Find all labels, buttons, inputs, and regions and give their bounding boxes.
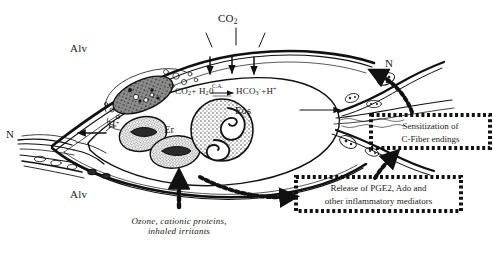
sensitization-box-text: Sensitization of C-Fiber endings: [371, 120, 490, 146]
mediators-line-2: other inflammatory mediators: [296, 195, 461, 208]
irritants-caption: Ozone, cationic proteins, inhaled irrita…: [114, 216, 244, 237]
eq-co2: CO: [175, 86, 188, 96]
equation-reactants: CO2+ H20: [175, 86, 214, 97]
label-nerve-right: N: [385, 57, 393, 70]
figure-root: Alv Alv N N CO2 Er Eos H+ CO2+ H20 C.A. …: [0, 0, 493, 253]
co2-subscript: 2: [234, 17, 238, 26]
label-eosinophil: Eos: [235, 105, 251, 117]
label-nerve-left: N: [6, 128, 14, 141]
equation-products: HCO3-+H+: [236, 86, 277, 97]
mediators-box-text: Release of PGE2, Ado and other inflammat…: [296, 182, 461, 208]
proton-superscript: +: [115, 119, 119, 126]
caption-line-2: inhaled irritants: [114, 226, 244, 236]
eq-plus-1: +: [191, 86, 196, 96]
label-co2-gas: CO2: [218, 12, 238, 26]
sensitization-line-2: C-Fiber endings: [371, 133, 490, 146]
label-alveolus-top: Alv: [70, 42, 87, 55]
eq-h2o: H: [199, 86, 206, 96]
sensitization-line-1: Sensitization of: [371, 120, 490, 133]
equation-catalyst-label: C.A.: [212, 83, 223, 89]
eq-h-sup: +: [273, 86, 277, 92]
co2-text: CO: [218, 12, 234, 24]
label-alveolus-bottom: Alv: [70, 188, 87, 201]
caption-line-1: Ozone, cationic proteins,: [114, 216, 244, 226]
eq-hco3: HCO: [236, 86, 256, 96]
mediators-line-1: Release of PGE2, Ado and: [296, 182, 461, 195]
label-proton: H+: [108, 119, 119, 131]
label-erythrocyte: Er: [164, 124, 174, 136]
